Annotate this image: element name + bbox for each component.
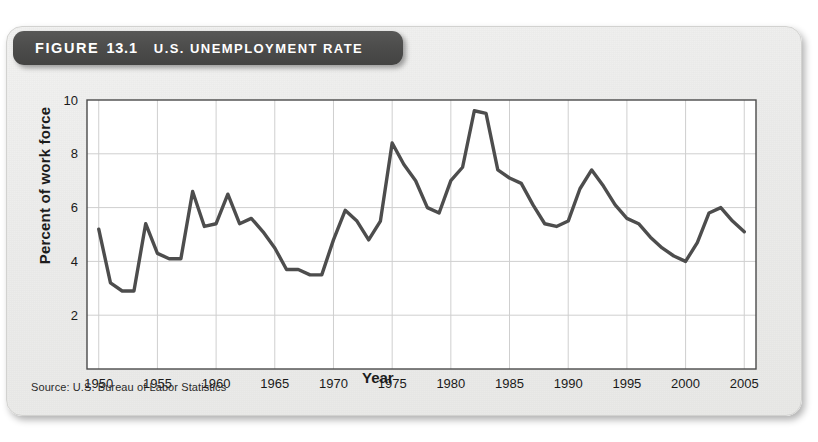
figure-title-banner: FIGURE 13.1 U.S. UNEMPLOYMENT RATE	[13, 31, 403, 65]
plot-background	[87, 100, 756, 369]
figure-banner-text: FIGURE 13.1 U.S. UNEMPLOYMENT RATE	[13, 40, 363, 56]
x-axis-title: Year	[362, 369, 394, 386]
svg-text:2: 2	[71, 308, 78, 323]
svg-text:10: 10	[64, 93, 78, 108]
svg-text:4: 4	[71, 254, 78, 269]
chart-container: 246810 195019551960196519701975198019851…	[7, 27, 801, 415]
figure-banner-title: U.S. UNEMPLOYMENT RATE	[154, 41, 363, 56]
svg-text:1970: 1970	[319, 376, 348, 391]
svg-text:1965: 1965	[260, 376, 289, 391]
svg-text:2005: 2005	[730, 376, 759, 391]
y-axis-tick-labels: 246810	[64, 93, 78, 323]
y-axis-title: Percent of work force	[36, 86, 53, 286]
unemployment-line-chart: 246810 195019551960196519701975198019851…	[7, 27, 801, 415]
source-note: Source: U.S. Bureau of Labor Statistics	[31, 381, 226, 393]
svg-text:6: 6	[71, 200, 78, 215]
figure-card: FIGURE 13.1 U.S. UNEMPLOYMENT RATE 24681…	[6, 26, 802, 416]
svg-text:1980: 1980	[436, 376, 465, 391]
svg-text:1990: 1990	[554, 376, 583, 391]
svg-text:1985: 1985	[495, 376, 524, 391]
svg-text:8: 8	[71, 146, 78, 161]
svg-text:1995: 1995	[612, 376, 641, 391]
figure-banner-label: FIGURE	[35, 40, 99, 56]
svg-text:2000: 2000	[671, 376, 700, 391]
figure-banner-number: 13.1	[106, 40, 137, 56]
